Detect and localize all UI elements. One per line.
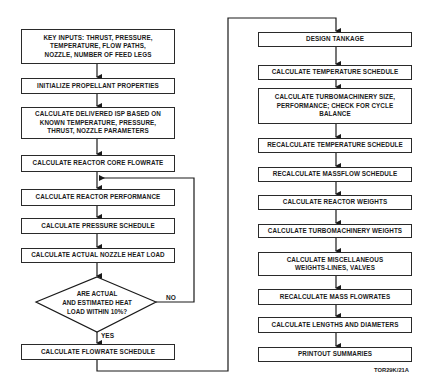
calculate-isp-box: CALCULATE DELIVERED ISP BASED ON KNOWN T… [21,107,175,139]
calculate-temperature-schedule-box: CALCULATE TEMPERATURE SCHEDULE [258,65,412,80]
yes-label: YES [101,332,114,339]
calculate-reactor-performance-box: CALCULATE REACTOR PERFORMANCE [21,189,175,206]
calculate-nozzle-heat-load-box: CALCULATE ACTUAL NOZZLE HEAT LOAD [21,248,175,263]
decision-text: ARE ACTUAL AND ESTIMATED HEAT LOAD WITHI… [50,290,144,316]
initialize-propellant-box: INITIALIZE PROPELLANT PROPERTIES [21,78,175,94]
calculate-turbomachinery-size-box: CALCULATE TURBOMACHINERY SIZE, PERFORMAN… [258,88,412,124]
design-tankage-box: DESIGN TANKAGE [258,32,412,47]
calculate-misc-weights-box: CALCULATE MISCELLANEOUS WEIGHTS-LINES, V… [258,252,412,276]
no-label: NO [166,294,176,301]
recalculate-massflow-schedule-box: RECALCULATE MASSFLOW SCHEDULE [258,167,412,182]
calculate-pressure-schedule-box: CALCULATE PRESSURE SCHEDULE [21,218,175,234]
calculate-turbomachinery-weights-box: CALCULATE TURBOMACHINERY WEIGHTS [258,224,412,238]
recalculate-temperature-schedule-box: RECALCULATE TEMPERATURE SCHEDULE [258,138,412,153]
recalculate-mass-flowrates-box: RECALCULATE MASS FLOWRATES [258,289,412,305]
reference-code: TOR29K/21A [374,367,409,373]
calculate-lengths-diameters-box: CALCULATE LENGTHS AND DIAMETERS [258,317,412,333]
calculate-flowrate-schedule-box: CALCULATE FLOWRATE SCHEDULE [21,344,175,360]
calculate-core-flowrate-box: CALCULATE REACTOR CORE FLOWRATE [21,155,175,172]
printout-summaries-box: PRINTOUT SUMMARIES [258,347,412,362]
calculate-reactor-weights-box: CALCULATE REACTOR WEIGHTS [258,195,412,210]
key-inputs-box: KEY INPUTS: THRUST, PRESSURE, TEMPERATUR… [21,29,175,64]
